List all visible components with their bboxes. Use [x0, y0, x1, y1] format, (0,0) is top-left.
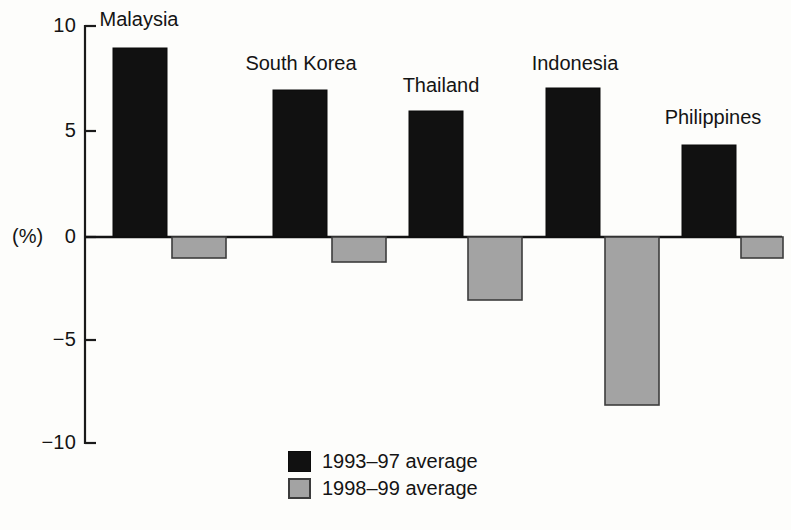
y-axis-label-5: 5: [18, 119, 76, 142]
legend-swatch-black-icon: [288, 451, 311, 472]
category-label-indonesia: Indonesia: [510, 52, 640, 75]
chart-legend: 1993–97 average 1998–99 average: [288, 449, 478, 500]
legend-swatch-gray-icon: [288, 478, 311, 499]
category-label-thailand: Thailand: [382, 74, 500, 97]
bar-philippines-1998-99: [741, 237, 783, 258]
bar-malaysia-1998-99: [172, 237, 226, 258]
y-axis-label-minus-5: −5: [18, 328, 76, 351]
category-label-south-korea: South Korea: [226, 52, 376, 75]
y-axis-unit-label: (%): [12, 225, 43, 248]
legend-item-1998-99: 1998–99 average: [288, 476, 478, 500]
bar-indonesia-1993-97: [546, 88, 600, 237]
bar-philippines-1993-97: [682, 145, 736, 237]
bar-chart: 10 5 0 −5 −10 (%) Malaysia South Korea T…: [0, 0, 791, 530]
legend-label-1998-99: 1998–99 average: [322, 477, 478, 499]
legend-label-1993-97: 1993–97 average: [322, 450, 478, 472]
bar-malaysia-1993-97: [113, 48, 167, 237]
y-axis-label-minus-10: −10: [18, 431, 76, 454]
bar-south-korea-1993-97: [273, 90, 327, 237]
bar-indonesia-1998-99: [605, 237, 659, 405]
category-label-malaysia: Malaysia: [84, 8, 194, 31]
legend-item-1993-97: 1993–97 average: [288, 449, 478, 473]
bar-thailand-1993-97: [409, 111, 463, 237]
bar-south-korea-1998-99: [332, 237, 386, 262]
category-label-philippines: Philippines: [640, 106, 786, 129]
bar-thailand-1998-99: [468, 237, 522, 300]
y-axis-label-10: 10: [18, 14, 76, 37]
